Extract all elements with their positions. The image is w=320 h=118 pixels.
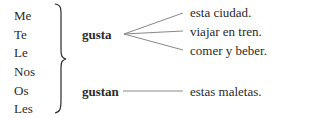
connector-line-2 xyxy=(124,31,183,34)
object-estas-maletas: estas maletas. xyxy=(190,84,261,99)
object-viajar-en-tren: viajar en tren. xyxy=(190,24,262,39)
verb-gusta: gusta xyxy=(82,27,112,42)
verb-gustan: gustan xyxy=(82,84,119,99)
brace xyxy=(55,4,66,113)
object-esta-ciudad: esta ciudad. xyxy=(190,5,251,20)
object-comer-y-beber: comer y beber. xyxy=(190,43,267,58)
connector-line-3 xyxy=(124,34,183,50)
connector-line-1 xyxy=(124,13,183,34)
